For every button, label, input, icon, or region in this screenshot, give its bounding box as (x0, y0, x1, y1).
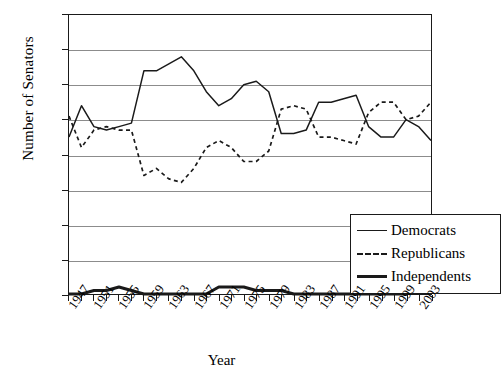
legend-swatch-solid-thick-icon (357, 271, 387, 283)
series-line-democrats (69, 57, 431, 141)
chart-legend: Democrats Republicans Independents (350, 214, 501, 294)
x-axis-title: Year (0, 352, 443, 369)
series-line-republicans (69, 102, 431, 182)
y-axis-title: Number of Senators (20, 0, 37, 209)
legend-label-republicans: Republicans (391, 246, 465, 261)
legend-item-democrats: Democrats (357, 219, 494, 242)
legend-item-republicans: Republicans (357, 242, 494, 265)
legend-swatch-solid-thin-icon (357, 225, 387, 237)
legend-label-democrats: Democrats (391, 223, 456, 238)
legend-swatch-dotted-icon (357, 248, 387, 260)
plot-area: Democrats Republicans Independents (68, 14, 432, 295)
